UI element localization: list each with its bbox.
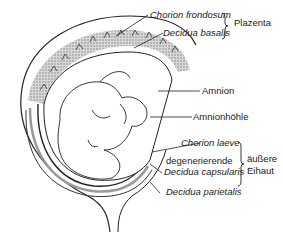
label-chorion-laeve: Chorion laeve xyxy=(181,137,240,148)
fetal-membranes-diagram: Chorion frondosum Decidua basalis Plazen… xyxy=(0,0,283,242)
label-amnionhoehle: Amnionhöhle xyxy=(193,111,248,122)
amniotic-cavity xyxy=(44,52,172,180)
label-amnion: Amnion xyxy=(202,85,234,96)
eihaut-brace xyxy=(238,142,244,186)
label-plazenta: Plazenta xyxy=(234,17,271,28)
label-aeussere: äußere xyxy=(247,153,277,164)
label-decidua-capsularis: Decidua capsularis xyxy=(164,166,244,177)
label-chorion-frondosum: Chorion frondosum xyxy=(150,9,231,20)
label-degenerierende: degenerierende xyxy=(166,155,233,166)
label-decidua-parietalis: Decidua parietalis xyxy=(166,186,242,197)
label-eihaut: Eihaut xyxy=(247,165,274,176)
label-decidua-basalis: Decidua basalis xyxy=(163,27,230,38)
